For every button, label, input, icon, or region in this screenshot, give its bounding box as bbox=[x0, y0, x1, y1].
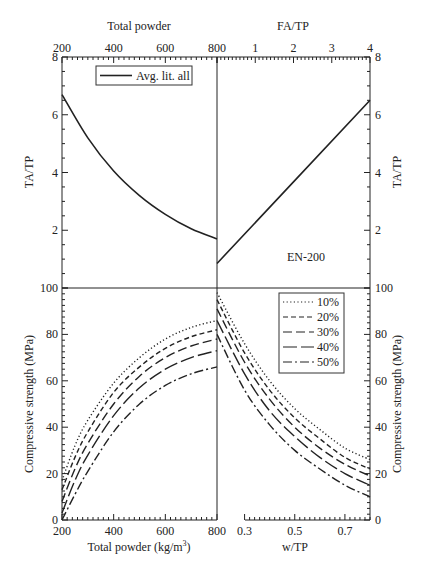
bottom-left-x-label: Total powder (kg/m3) bbox=[87, 539, 190, 554]
tick-label: 6 bbox=[375, 108, 381, 122]
curve-tp-20pct bbox=[62, 330, 217, 490]
tick-label: 20 bbox=[46, 467, 58, 481]
legend-top: Avg. lit. all bbox=[96, 66, 192, 85]
tick-label: 60 bbox=[46, 374, 58, 388]
tick-label: 40 bbox=[375, 420, 387, 434]
tick-label: 800 bbox=[208, 524, 226, 538]
legend-label-30pct: 30% bbox=[317, 325, 339, 339]
tick-label: 0.7 bbox=[337, 524, 352, 538]
tick-label: 600 bbox=[156, 41, 174, 55]
legend-bottom: 10%20%30%40%50% bbox=[279, 293, 344, 373]
left-top-y-label: TA/TP bbox=[22, 155, 36, 188]
top-right-x-label: FA/TP bbox=[277, 19, 309, 33]
left-bottom-y-label: Compressive strength (MPa) bbox=[22, 335, 36, 473]
legend-label-50pct: 50% bbox=[317, 355, 339, 369]
tick-label: 2 bbox=[52, 223, 58, 237]
tick-label: 80 bbox=[375, 327, 387, 341]
right-bottom-y-label: Compressive strength (MPa) bbox=[390, 335, 404, 473]
axes-frame bbox=[62, 57, 370, 520]
tick-label: 2 bbox=[291, 41, 297, 55]
tick-label: 4 bbox=[367, 41, 373, 55]
legend-label-20pct: 20% bbox=[317, 310, 339, 324]
legend-label-10pct: 10% bbox=[317, 295, 339, 309]
annotation-en200: EN-200 bbox=[287, 250, 325, 264]
chart-figure: 2004006008001234224466880020204040606080… bbox=[0, 0, 428, 570]
tick-label: 80 bbox=[46, 327, 58, 341]
tick-label: 400 bbox=[105, 41, 123, 55]
tick-label: 0 bbox=[375, 513, 381, 527]
bottom-right-x-label: w/TP bbox=[282, 540, 308, 554]
curve-tp-30pct bbox=[62, 339, 217, 501]
top-left-x-label: Total powder bbox=[107, 19, 170, 33]
tick-label: 4 bbox=[52, 166, 58, 180]
legend-label-avg: Avg. lit. all bbox=[136, 69, 190, 83]
tick-label: 20 bbox=[375, 467, 387, 481]
tick-label: 1 bbox=[252, 41, 258, 55]
curve-tp-50pct bbox=[62, 367, 217, 520]
legend-label-40pct: 40% bbox=[317, 340, 339, 354]
tick-label: 3 bbox=[329, 41, 335, 55]
tick-label: 200 bbox=[53, 524, 71, 538]
tick-label: 100 bbox=[40, 281, 58, 295]
curve-avg-lit-all-fa-tp bbox=[217, 100, 370, 263]
tick-label: 0.5 bbox=[287, 524, 302, 538]
tick-label: 40 bbox=[46, 420, 58, 434]
right-top-y-label: TA/TP bbox=[390, 155, 404, 188]
tick-label: 100 bbox=[375, 281, 393, 295]
tick-label: 0.3 bbox=[237, 524, 252, 538]
tick-label: 400 bbox=[105, 524, 123, 538]
tick-label: 6 bbox=[52, 108, 58, 122]
tick-label: 8 bbox=[52, 50, 58, 64]
curve-avg-lit-all-total-powder bbox=[62, 95, 217, 239]
tick-label: 8 bbox=[375, 50, 381, 64]
tick-label: 60 bbox=[375, 374, 387, 388]
tick-label: 800 bbox=[208, 41, 226, 55]
tick-label: 2 bbox=[375, 223, 381, 237]
tick-label: 600 bbox=[156, 524, 174, 538]
tick-label: 4 bbox=[375, 166, 381, 180]
curve-tp-40pct bbox=[62, 351, 217, 513]
